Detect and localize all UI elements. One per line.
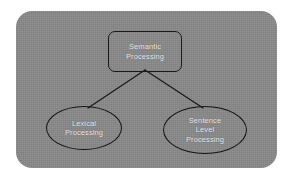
diagram-canvas: Semantic Processing Lexical Processing S… [0, 0, 293, 179]
edge-semantic-to-sentence [145, 70, 203, 108]
node-lexical-processing[interactable]: Lexical Processing [46, 106, 122, 150]
node-semantic-processing[interactable]: Semantic Processing [108, 31, 182, 72]
node-semantic-processing-label: Semantic Processing [126, 42, 164, 61]
node-sentence-level-processing-label: Sentence Level Processing [186, 116, 224, 145]
node-sentence-level-processing[interactable]: Sentence Level Processing [163, 106, 247, 154]
node-lexical-processing-label: Lexical Processing [65, 119, 103, 138]
edge-layer [0, 0, 293, 179]
edge-semantic-to-lexical [88, 70, 145, 108]
